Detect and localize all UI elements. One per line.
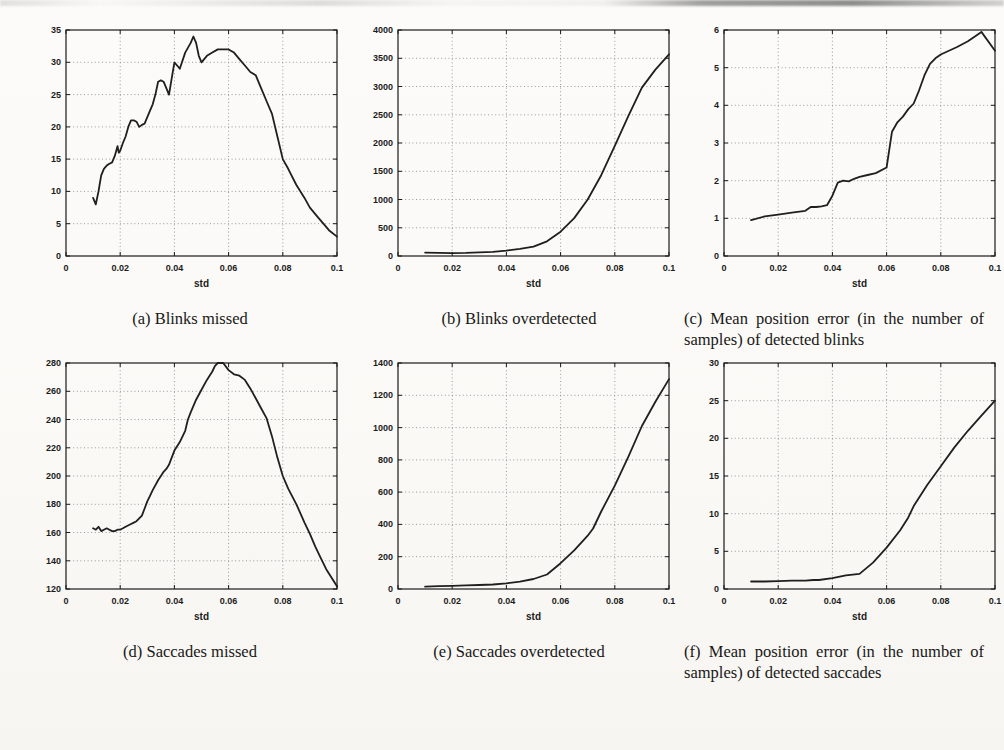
blinks-position-error-chart: 00.020.040.060.080.10123456std — [682, 20, 1004, 296]
svg-text:1000: 1000 — [373, 422, 393, 432]
svg-text:15: 15 — [51, 154, 61, 164]
svg-text:0: 0 — [721, 596, 726, 606]
svg-text:180: 180 — [46, 499, 61, 509]
svg-text:0.08: 0.08 — [606, 263, 624, 273]
svg-text:1500: 1500 — [373, 166, 393, 176]
svg-text:20: 20 — [51, 122, 61, 132]
svg-text:2: 2 — [714, 176, 719, 186]
svg-text:140: 140 — [46, 556, 61, 566]
svg-text:30: 30 — [51, 57, 61, 67]
svg-text:2000: 2000 — [373, 138, 393, 148]
svg-text:4000: 4000 — [373, 25, 393, 35]
svg-text:std: std — [194, 278, 209, 289]
svg-text:3: 3 — [714, 138, 719, 148]
saccades-position-error-chart: 00.020.040.060.080.1051015202530std — [682, 353, 1004, 629]
svg-text:0: 0 — [388, 584, 393, 594]
svg-text:std: std — [526, 611, 541, 622]
svg-text:0.1: 0.1 — [331, 263, 344, 273]
svg-text:200: 200 — [378, 552, 393, 562]
svg-text:0.1: 0.1 — [331, 596, 344, 606]
svg-text:200: 200 — [46, 471, 61, 481]
svg-text:5: 5 — [56, 219, 61, 229]
svg-text:240: 240 — [46, 414, 61, 424]
svg-text:35: 35 — [51, 25, 61, 35]
svg-text:0.1: 0.1 — [663, 596, 676, 606]
subplot-c: 00.020.040.060.080.10123456std (c) Mean … — [682, 20, 1000, 351]
svg-text:15: 15 — [709, 471, 719, 481]
svg-text:std: std — [526, 278, 541, 289]
svg-text:0.02: 0.02 — [443, 263, 461, 273]
svg-text:0.04: 0.04 — [166, 263, 184, 273]
svg-text:0.06: 0.06 — [878, 263, 896, 273]
svg-text:160: 160 — [46, 527, 61, 537]
svg-text:0: 0 — [395, 263, 400, 273]
subplot-b: 00.020.040.060.080.105001000150020002500… — [356, 20, 682, 351]
svg-text:30: 30 — [709, 358, 719, 368]
subplot-d: 00.020.040.060.080.112014016018020022024… — [24, 353, 356, 684]
svg-text:0.02: 0.02 — [443, 596, 461, 606]
blinks-missed-chart: 00.020.040.060.080.105101520253035std — [24, 20, 346, 296]
svg-text:600: 600 — [378, 487, 393, 497]
subplot-d-caption: (d) Saccades missed — [30, 641, 350, 662]
svg-text:120: 120 — [46, 584, 61, 594]
svg-text:800: 800 — [378, 455, 393, 465]
svg-text:1: 1 — [714, 213, 719, 223]
svg-text:std: std — [852, 611, 867, 622]
svg-text:260: 260 — [46, 386, 61, 396]
subplot-a: 00.020.040.060.080.105101520253035std (a… — [24, 20, 356, 351]
scanned-paper-page: 00.020.040.060.080.105101520253035std (a… — [0, 0, 1004, 750]
svg-text:0: 0 — [63, 263, 68, 273]
svg-text:280: 280 — [46, 358, 61, 368]
saccades-missed-chart: 00.020.040.060.080.112014016018020022024… — [24, 353, 346, 629]
svg-text:0: 0 — [63, 596, 68, 606]
svg-text:0: 0 — [56, 251, 61, 261]
svg-text:0.08: 0.08 — [274, 263, 292, 273]
svg-text:5: 5 — [714, 63, 719, 73]
svg-text:4: 4 — [714, 100, 719, 110]
svg-text:std: std — [194, 611, 209, 622]
svg-text:0.06: 0.06 — [220, 263, 238, 273]
scan-edge-artifact — [0, 0, 1004, 6]
svg-text:0.02: 0.02 — [111, 263, 129, 273]
svg-text:0.06: 0.06 — [220, 596, 238, 606]
svg-text:0.08: 0.08 — [932, 263, 950, 273]
figure-subplot-grid: 00.020.040.060.080.105101520253035std (a… — [24, 20, 1000, 684]
svg-text:0.06: 0.06 — [552, 596, 570, 606]
svg-text:0.04: 0.04 — [166, 596, 184, 606]
svg-text:6: 6 — [714, 25, 719, 35]
saccades-overdetected-chart: 00.020.040.060.080.102004006008001000120… — [356, 353, 678, 629]
svg-text:0.02: 0.02 — [769, 596, 787, 606]
svg-text:220: 220 — [46, 443, 61, 453]
subplot-c-caption: (c) Mean position error (in the number o… — [684, 308, 984, 351]
svg-text:25: 25 — [709, 396, 719, 406]
svg-text:0.04: 0.04 — [498, 596, 516, 606]
svg-text:0.06: 0.06 — [552, 263, 570, 273]
svg-text:400: 400 — [378, 519, 393, 529]
svg-text:20: 20 — [709, 433, 719, 443]
svg-text:0.04: 0.04 — [824, 263, 842, 273]
subplot-f-caption: (f) Mean position error (in the number o… — [684, 641, 984, 684]
svg-text:0.02: 0.02 — [111, 596, 129, 606]
svg-text:2500: 2500 — [373, 110, 393, 120]
svg-text:0.08: 0.08 — [606, 596, 624, 606]
svg-text:500: 500 — [378, 223, 393, 233]
svg-text:0.04: 0.04 — [498, 263, 516, 273]
svg-text:0: 0 — [388, 251, 393, 261]
svg-text:0.1: 0.1 — [663, 263, 676, 273]
svg-text:3500: 3500 — [373, 53, 393, 63]
svg-text:0: 0 — [714, 584, 719, 594]
blinks-overdetected-chart: 00.020.040.060.080.105001000150020002500… — [356, 20, 678, 296]
subplot-a-caption: (a) Blinks missed — [30, 308, 350, 329]
svg-text:0.06: 0.06 — [878, 596, 896, 606]
svg-text:10: 10 — [709, 509, 719, 519]
svg-text:25: 25 — [51, 90, 61, 100]
svg-text:0.02: 0.02 — [769, 263, 787, 273]
svg-text:1400: 1400 — [373, 358, 393, 368]
svg-text:1000: 1000 — [373, 195, 393, 205]
svg-text:0: 0 — [721, 263, 726, 273]
subplot-b-caption: (b) Blinks overdetected — [362, 308, 676, 329]
svg-text:0.04: 0.04 — [824, 596, 842, 606]
svg-text:0.1: 0.1 — [989, 263, 1002, 273]
svg-text:3000: 3000 — [373, 82, 393, 92]
svg-text:5: 5 — [714, 546, 719, 556]
